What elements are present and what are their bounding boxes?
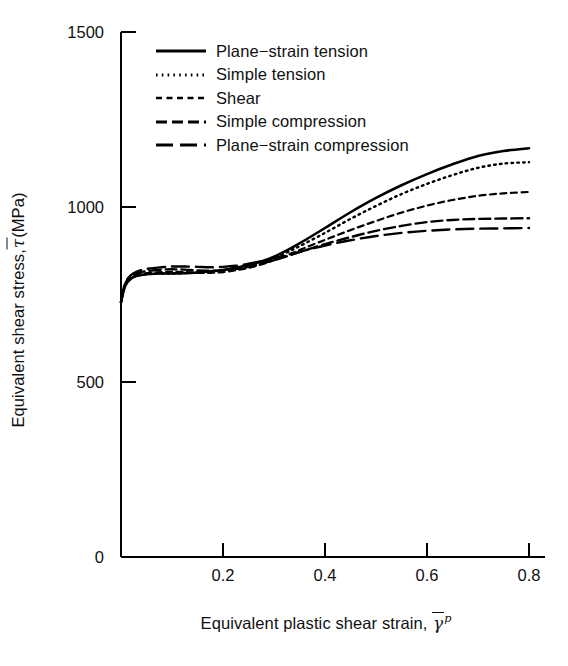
legend-line-sample [154,44,216,58]
legend-item: Plane−strain compression [154,135,409,155]
legend-line-sample [154,138,216,152]
figure-canvas: Equivalent shear stress, τ (MPa) Equival… [0,0,568,666]
legend-item: Simple compression [154,112,409,132]
legend-item: Simple tension [154,65,409,85]
legend-item: Plane−strain tension [154,41,409,61]
legend-line-sample [154,115,216,129]
curve-dotted [121,162,529,302]
legend: Plane−strain tensionSimple tensionShearS… [154,41,409,155]
legend-item-label: Simple tension [216,65,326,84]
legend-line-sample [154,68,216,82]
legend-item-label: Plane−strain tension [216,42,368,61]
legend-line-sample [154,91,216,105]
legend-item: Shear [154,88,409,108]
legend-item-label: Plane−strain compression [216,136,409,155]
curve-dash [121,218,529,302]
data-curves [121,148,529,302]
legend-item-label: Simple compression [216,112,366,131]
legend-item-label: Shear [216,89,261,108]
curve-long-dash [121,228,529,302]
curve-short-dash [121,192,529,302]
